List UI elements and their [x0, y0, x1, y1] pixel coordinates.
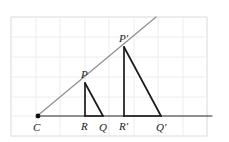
figure-canvas: CRQPR′Q′P′ [0, 0, 229, 142]
geometry-figure: CRQPR′Q′P′ [0, 0, 229, 142]
point-dot-c [36, 114, 41, 119]
point-label-c: C [33, 121, 41, 133]
point-label-q-prime: Q′ [156, 121, 167, 133]
point-label-r-prime: R′ [118, 120, 129, 132]
point-label-q: Q [99, 121, 107, 133]
point-label-p: P [80, 68, 88, 80]
point-dots [36, 114, 41, 119]
point-label-p-prime: P′ [118, 32, 129, 44]
point-label-r: R [80, 120, 88, 132]
